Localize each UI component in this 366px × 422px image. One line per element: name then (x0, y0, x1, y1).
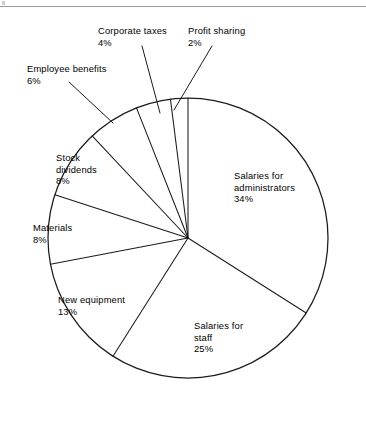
slice-label-materials-name: Materials (33, 222, 72, 233)
slice-label-salaries-staff-line1: Salaries for (194, 320, 243, 331)
slice-label-new-equipment-percent: 13% (58, 306, 125, 318)
slice-label-stock-dividends-name-line1: Stock (56, 152, 80, 163)
slice-label-salaries-administrators: Salaries for administrators 34% (234, 170, 295, 205)
slice-divider-salaries-staff (188, 238, 306, 313)
slice-label-profit-sharing-percent: 2% (188, 37, 245, 49)
slice-label-employee-benefits-percent: 6% (27, 75, 107, 87)
slice-label-salaries-administrators-line2: administrators (234, 182, 295, 193)
slice-label-salaries-administrators-line1: Salaries for (234, 170, 283, 181)
slice-label-employee-benefits-name: Employee benefits (27, 63, 107, 74)
slice-label-corporate-taxes-percent: 4% (98, 37, 167, 49)
slice-label-stock-dividends-percent: 8% (56, 175, 97, 187)
slice-label-salaries-staff: Salaries for staff 25% (194, 320, 243, 355)
slice-label-employee-benefits: Employee benefits 6% (27, 63, 107, 86)
slice-label-corporate-taxes: Corporate taxes 4% (98, 25, 167, 48)
leader-line-employee-benefits (69, 82, 113, 123)
slice-label-salaries-staff-line2: staff (194, 332, 212, 343)
leader-line-profit-sharing (174, 46, 212, 110)
slice-label-stock-dividends-name-line2: dividends (56, 164, 97, 175)
slice-label-stock-dividends: Stock dividends 8% (56, 152, 97, 187)
pie-slice-dividers (50, 98, 306, 356)
slice-label-corporate-taxes-name: Corporate taxes (98, 25, 167, 36)
slice-label-materials-percent: 8% (33, 234, 72, 246)
slice-label-new-equipment: New equipment 13% (58, 294, 125, 317)
slice-label-materials: Materials 8% (33, 222, 72, 245)
slice-label-salaries-staff-percent: 25% (194, 343, 243, 355)
slice-label-profit-sharing: Profit sharing 2% (188, 25, 245, 48)
slice-label-new-equipment-name: New equipment (58, 294, 125, 305)
slice-label-salaries-administrators-percent: 34% (234, 193, 295, 205)
pie-chart-page: Employee benefits 6% Corporate taxes 4% … (0, 0, 366, 422)
slice-label-profit-sharing-name: Profit sharing (188, 25, 245, 36)
